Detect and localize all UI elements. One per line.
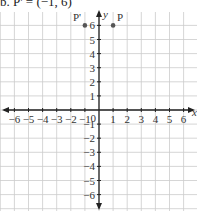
svg-text:−2: −2 [65, 113, 77, 125]
svg-text:−5: −5 [23, 113, 35, 125]
svg-text:6: 6 [181, 113, 187, 125]
svg-text:4: 4 [153, 113, 159, 125]
svg-text:−6: −6 [83, 189, 95, 201]
svg-text:5: 5 [167, 113, 173, 125]
svg-text:−2: −2 [83, 132, 95, 144]
svg-text:x: x [191, 106, 197, 118]
svg-text:−5: −5 [83, 175, 95, 187]
svg-text:−6: −6 [9, 113, 21, 125]
svg-text:3: 3 [90, 62, 96, 74]
svg-text:1: 1 [90, 90, 96, 102]
svg-text:−3: −3 [83, 146, 95, 158]
svg-text:y: y [102, 8, 108, 20]
svg-text:5: 5 [90, 34, 96, 46]
svg-text:P: P [117, 11, 123, 23]
svg-text:−4: −4 [83, 160, 95, 172]
svg-text:−3: −3 [51, 113, 63, 125]
svg-text:1: 1 [110, 113, 116, 125]
svg-text:0: 0 [91, 112, 97, 124]
svg-text:−4: −4 [37, 113, 49, 125]
svg-text:4: 4 [90, 48, 96, 60]
svg-text:P': P' [73, 11, 81, 23]
svg-text:2: 2 [90, 76, 96, 88]
svg-text:3: 3 [139, 113, 145, 125]
svg-text:2: 2 [124, 113, 130, 125]
svg-text:6: 6 [90, 19, 96, 31]
coordinate-plane: −6−6−5−5−4−4−3−3−2−2−1−11122334455660xyP… [0, 0, 197, 211]
